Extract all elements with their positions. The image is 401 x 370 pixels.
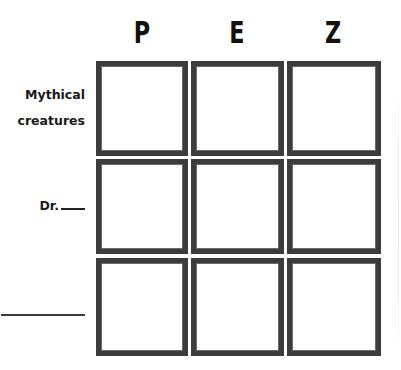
column-header-z: Z bbox=[300, 14, 366, 50]
grid-cell-r1-c2[interactable] bbox=[191, 61, 284, 156]
column-header-e: E bbox=[204, 14, 270, 50]
column-header-p: P bbox=[109, 14, 175, 50]
grid-cell-r1-c1[interactable] bbox=[96, 61, 188, 156]
doctor-name-blank[interactable] bbox=[61, 208, 85, 210]
row-label-mythical-creatures: Mythical creatures bbox=[18, 82, 85, 134]
grid-cell-r2-c1[interactable] bbox=[96, 159, 188, 254]
grid-cell-r1-c3[interactable] bbox=[287, 61, 381, 156]
page-edge-shadow bbox=[398, 100, 399, 340]
grid-cell-r3-c2[interactable] bbox=[191, 258, 284, 356]
row-label-doctor-prefix: Dr. bbox=[39, 198, 59, 213]
grid-cell-r3-c3[interactable] bbox=[287, 258, 381, 356]
grid-cell-r3-c1[interactable] bbox=[96, 258, 188, 356]
row-label-line-2: creatures bbox=[18, 108, 85, 134]
row-label-doctor: Dr. bbox=[39, 193, 85, 219]
row-label-blank-line[interactable] bbox=[1, 314, 85, 316]
grid-cell-r2-c3[interactable] bbox=[287, 159, 381, 254]
grid-cell-r2-c2[interactable] bbox=[191, 159, 284, 254]
row-label-line-1: Mythical bbox=[18, 82, 85, 108]
